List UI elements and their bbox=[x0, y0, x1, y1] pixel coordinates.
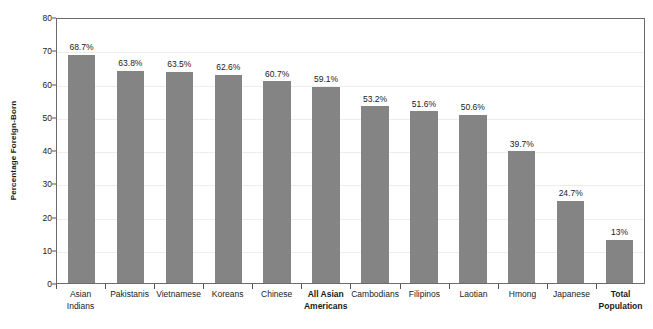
bar[interactable] bbox=[312, 87, 339, 284]
x-axis-label-row: AsianIndiansPakistanisVietnameseKoreansC… bbox=[56, 289, 645, 329]
x-axis-category-label: Cambodians bbox=[350, 289, 400, 329]
bar[interactable] bbox=[508, 151, 535, 283]
y-axis-tick-column: 01020304050607080 bbox=[26, 0, 52, 329]
y-axis-tick-label: 50 bbox=[30, 114, 52, 123]
x-axis-category-label-line: Total bbox=[597, 289, 644, 301]
x-axis-category-label: AsianIndians bbox=[56, 289, 105, 329]
bar-value-label: 63.8% bbox=[106, 59, 155, 68]
x-axis-category-label-line: Filipinos bbox=[401, 289, 448, 301]
bar-value-label: 62.6% bbox=[204, 63, 253, 72]
y-axis-tick-label: 30 bbox=[30, 180, 52, 189]
bar-value-label: 39.7% bbox=[497, 140, 546, 149]
y-axis-tick-label: 20 bbox=[30, 213, 52, 222]
bar-slot: 24.7% bbox=[546, 19, 595, 283]
x-axis-category-label-line: Cambodians bbox=[351, 289, 399, 301]
bar-value-label: 68.7% bbox=[57, 43, 106, 52]
x-axis-category-label-line: Koreans bbox=[204, 289, 251, 301]
bar-chart-figure: Percentage Foreign-Born 0102030405060708… bbox=[0, 0, 653, 329]
y-axis-tick-label: 40 bbox=[30, 147, 52, 156]
bar[interactable] bbox=[215, 75, 242, 283]
bar-slot: 13% bbox=[595, 19, 644, 283]
bar-slot: 63.8% bbox=[106, 19, 155, 283]
bar-series: 68.7%63.8%63.5%62.6%60.7%59.1%53.2%51.6%… bbox=[57, 19, 644, 283]
y-axis-tick-label: 80 bbox=[30, 14, 52, 23]
y-axis-tick-label: 10 bbox=[30, 247, 52, 256]
bar[interactable] bbox=[606, 240, 633, 283]
bar[interactable] bbox=[117, 71, 144, 283]
bar-slot: 63.5% bbox=[155, 19, 204, 283]
bar-slot: 39.7% bbox=[497, 19, 546, 283]
y-axis-tick-label: 60 bbox=[30, 80, 52, 89]
x-axis-category-label: Vietnamese bbox=[154, 289, 203, 329]
bar-value-label: 50.6% bbox=[448, 103, 497, 112]
bar-slot: 62.6% bbox=[204, 19, 253, 283]
x-axis-category-label-line: Americans bbox=[302, 301, 349, 313]
y-axis-title: Percentage Foreign-Born bbox=[6, 0, 22, 300]
bar-slot: 60.7% bbox=[253, 19, 302, 283]
bar-value-label: 24.7% bbox=[546, 189, 595, 198]
plot-area: 68.7%63.8%63.5%62.6%60.7%59.1%53.2%51.6%… bbox=[56, 18, 645, 284]
x-axis-category-label: Japanese bbox=[547, 289, 596, 329]
x-axis-category-label: Koreans bbox=[203, 289, 252, 329]
y-axis-tick-label: 70 bbox=[30, 47, 52, 56]
bar-value-label: 59.1% bbox=[302, 75, 351, 84]
bar-slot: 51.6% bbox=[399, 19, 448, 283]
x-axis-category-label: TotalPopulation bbox=[596, 289, 645, 329]
x-axis-category-label-line: All Asian bbox=[302, 289, 349, 301]
x-axis-category-label-line: Pakistanis bbox=[106, 289, 153, 301]
bar-value-label: 63.5% bbox=[155, 60, 204, 69]
bar-slot: 59.1% bbox=[302, 19, 351, 283]
x-axis-category-label: Hmong bbox=[498, 289, 547, 329]
x-axis-category-label: Laotian bbox=[449, 289, 498, 329]
bar[interactable] bbox=[361, 106, 388, 283]
x-axis-category-label: All AsianAmericans bbox=[301, 289, 350, 329]
bar-value-label: 60.7% bbox=[253, 70, 302, 79]
x-axis-category-label-line: Asian bbox=[57, 289, 104, 301]
x-axis-category-label: Pakistanis bbox=[105, 289, 154, 329]
bar-slot: 50.6% bbox=[448, 19, 497, 283]
bar[interactable] bbox=[68, 55, 95, 283]
x-axis-category-label-line: Vietnamese bbox=[155, 289, 202, 301]
y-axis-title-text: Percentage Foreign-Born bbox=[10, 100, 19, 199]
x-axis-category-label: Chinese bbox=[252, 289, 301, 329]
x-axis-category-label-line: Laotian bbox=[450, 289, 497, 301]
bar[interactable] bbox=[166, 72, 193, 283]
bar-value-label: 13% bbox=[595, 228, 644, 237]
bar[interactable] bbox=[410, 111, 437, 283]
x-axis-category-label-line: Chinese bbox=[253, 289, 300, 301]
bar-slot: 68.7% bbox=[57, 19, 106, 283]
bar[interactable] bbox=[459, 115, 486, 283]
x-axis-category-label-line: Indians bbox=[57, 301, 104, 313]
bar[interactable] bbox=[263, 81, 290, 283]
x-axis-category-label-line: Hmong bbox=[499, 289, 546, 301]
x-axis-category-label-line: Japanese bbox=[548, 289, 595, 301]
bar-slot: 53.2% bbox=[351, 19, 400, 283]
y-axis-tick-label: 0 bbox=[30, 280, 52, 289]
x-axis-category-label-line: Population bbox=[597, 301, 644, 313]
x-axis-category-label: Filipinos bbox=[400, 289, 449, 329]
bar-value-label: 53.2% bbox=[351, 95, 400, 104]
bar[interactable] bbox=[557, 201, 584, 283]
bar-value-label: 51.6% bbox=[399, 100, 448, 109]
